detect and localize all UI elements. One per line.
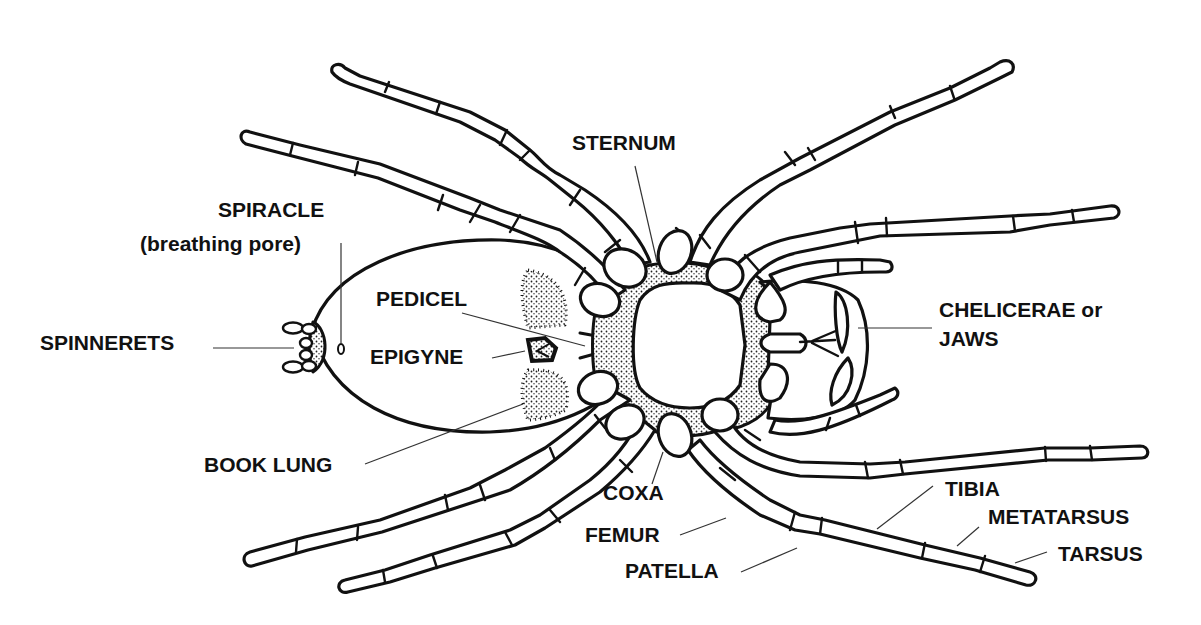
label-epigyne: EPIGYNE [370,344,463,369]
label-spinnerets: SPINNERETS [40,330,174,355]
chelicerae-shape [756,260,898,435]
label-sternum: STERNUM [572,130,676,155]
spider-anatomy-diagram: STERNUM SPIRACLE (breathing pore) PEDICE… [0,0,1201,625]
label-tibia: TIBIA [945,476,1000,501]
label-spiracle: SPIRACLE [218,197,324,222]
label-jaws: JAWS [939,326,999,351]
label-patella: PATELLA [625,558,719,583]
spinnerets-shape [283,322,325,373]
label-tarsus: TARSUS [1058,541,1143,566]
label-chelicerae: CHELICERAE or [939,297,1102,322]
label-metatarsus: METATARSUS [988,504,1129,529]
spiracle-shape [338,344,344,354]
label-femur: FEMUR [585,522,660,547]
label-pedicel: PEDICEL [376,286,467,311]
label-spiracle-note: (breathing pore) [140,231,301,256]
label-book-lung: BOOK LUNG [204,452,332,477]
label-coxa: COXA [603,480,664,505]
